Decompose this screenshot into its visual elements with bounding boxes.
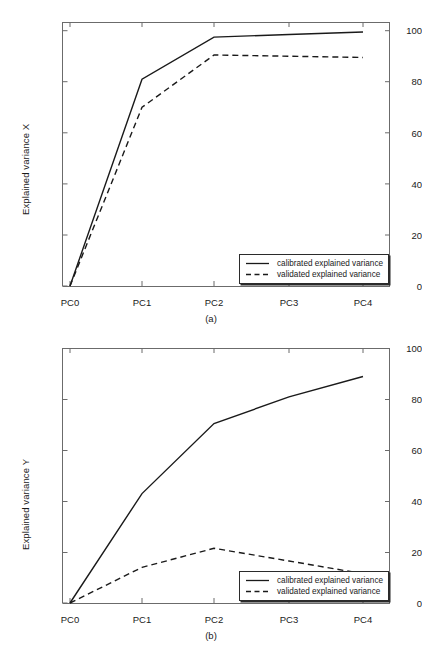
subfigure-caption: (b) — [0, 630, 422, 641]
x-axis-ticks — [70, 348, 363, 603]
series-calibrated-line — [70, 377, 363, 604]
series-calibrated-line — [70, 32, 363, 286]
legend-item-validated: validated explained variance — [244, 269, 383, 280]
legend-item-calibrated: calibrated explained variance — [244, 258, 383, 269]
legend-label-validated: validated explained variance — [271, 270, 380, 279]
subfigure-caption: (a) — [0, 313, 422, 324]
y-axis-ticks — [63, 31, 391, 286]
legend-dashed-line-icon — [244, 269, 271, 280]
y-axis-ticks — [63, 349, 391, 604]
legend-solid-line-icon — [244, 258, 271, 269]
legend-label-calibrated: calibrated explained variance — [271, 576, 383, 585]
legend-item-calibrated: calibrated explained variance — [244, 575, 383, 586]
legend-item-validated: validated explained variance — [244, 586, 383, 597]
legend-label-validated: validated explained variance — [271, 587, 380, 596]
plot-area — [0, 335, 422, 670]
legend: calibrated explained variance validated … — [239, 571, 389, 601]
series-validated-line — [70, 55, 363, 286]
legend: calibrated explained variance validated … — [239, 254, 389, 284]
legend-label-calibrated: calibrated explained variance — [271, 259, 383, 268]
plot-area — [0, 0, 422, 335]
legend-dashed-line-icon — [244, 586, 271, 597]
figure-explained-variance-y: Explained variance Y 100 80 60 40 20 0 P… — [0, 335, 422, 670]
axes-frame — [63, 348, 391, 604]
x-axis-ticks — [70, 22, 363, 286]
axes-frame — [63, 22, 391, 287]
legend-solid-line-icon — [244, 575, 271, 586]
figure-explained-variance-x: Explained variance X 100 80 60 40 20 0 P… — [0, 0, 422, 335]
